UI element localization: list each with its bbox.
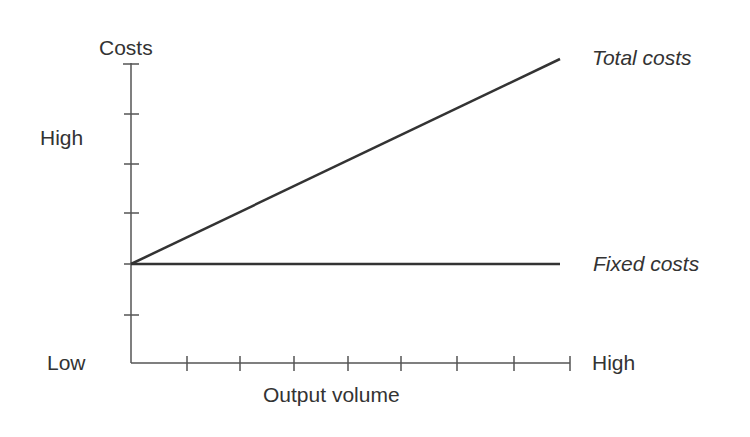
fixed-costs-label: Fixed costs xyxy=(593,253,699,274)
total-costs-label: Total costs xyxy=(592,47,692,68)
total-costs-line xyxy=(131,59,560,264)
x-axis-title: Output volume xyxy=(263,384,400,405)
x-high-label: High xyxy=(592,352,635,373)
x-axis xyxy=(131,356,570,371)
y-axis xyxy=(123,63,139,363)
y-low-label: Low xyxy=(47,352,86,373)
y-axis-title: Costs xyxy=(99,37,153,58)
y-high-label: High xyxy=(40,127,83,148)
